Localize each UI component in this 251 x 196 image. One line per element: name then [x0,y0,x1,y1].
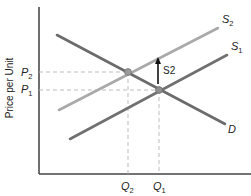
d-label: D [228,123,236,135]
demand-curve [57,35,225,124]
s2-label: S2 [222,13,234,28]
q1-label: Q1 [153,180,166,195]
shift-arrow-label: S2 [163,65,176,76]
y-axis-title: Price per Unit [4,57,15,118]
p1-label: P1 [21,83,33,98]
p2-label: P2 [21,66,33,81]
equilibrium-point-e1 [156,87,163,94]
q2-label: Q2 [121,180,134,195]
supply-curve-s2 [59,28,218,110]
supply-curve-s1 [70,55,227,139]
supply-demand-chart: S2 S2 S1 D P2 P1 Q2 Q1 Price per Unit [0,0,251,196]
s1-label: S1 [231,40,243,55]
equilibrium-point-e2 [125,69,132,76]
